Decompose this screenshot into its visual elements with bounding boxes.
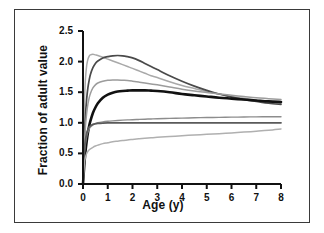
data-curve [83,129,281,184]
axes-group [78,31,281,189]
data-curves-group [83,54,281,184]
data-curve [83,90,281,184]
data-curve [83,117,281,183]
data-curve [83,55,281,182]
figure-frame: 0.00.51.01.52.02.5 012345678 Fraction of… [14,9,310,223]
chart-plot-area: 0.00.51.01.52.02.5 012345678 Fraction of… [15,10,311,224]
x-axis-title: Age (y) [15,198,311,212]
y-axis-title: Fraction of adult value [36,30,50,190]
